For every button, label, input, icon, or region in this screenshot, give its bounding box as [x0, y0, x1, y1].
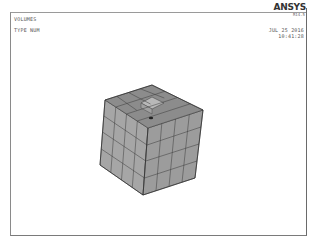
- volume-model-view[interactable]: [0, 0, 318, 245]
